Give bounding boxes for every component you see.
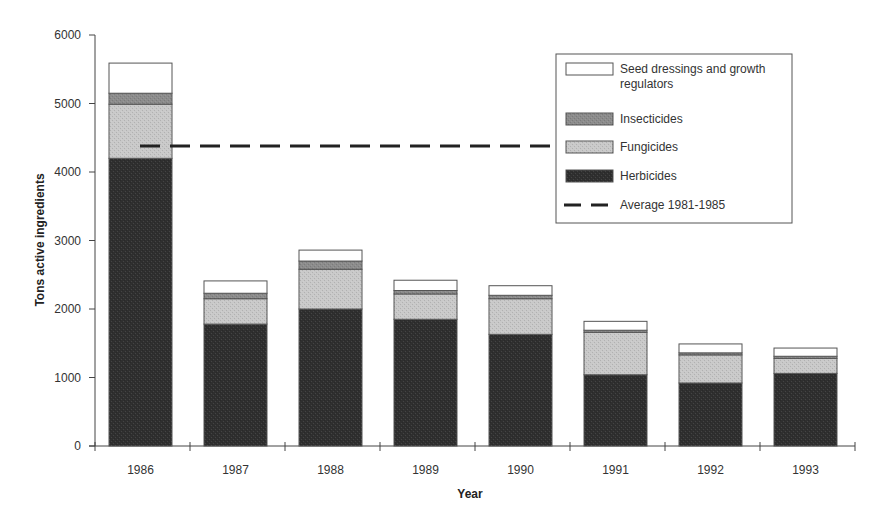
bar-1989 (394, 280, 457, 446)
x-axis-title: Year (457, 487, 483, 501)
bar-segment-seed-dressings-and-growth-regulators (204, 281, 267, 293)
bar-segment-seed-dressings-and-growth-regulators (584, 321, 647, 330)
legend-label: regulators (620, 77, 673, 91)
legend-item: Herbicides (566, 169, 677, 183)
legend-item: Insecticides (566, 112, 683, 126)
x-tick-label: 1989 (412, 463, 439, 477)
legend-swatch (566, 63, 613, 75)
x-tick-label: 1993 (792, 463, 819, 477)
x-tick-label: 1986 (127, 463, 154, 477)
bar-segment-seed-dressings-and-growth-regulators (774, 348, 837, 356)
x-tick-label: 1990 (507, 463, 534, 477)
x-axis: 19861987198819891990199119921993 (89, 442, 855, 477)
legend-label: Herbicides (620, 169, 677, 183)
x-tick-label: 1987 (222, 463, 249, 477)
bar-1991 (584, 321, 647, 446)
bar-segment-seed-dressings-and-growth-regulators (394, 280, 457, 290)
bar-segment-seed-dressings-and-growth-regulators (679, 344, 742, 353)
y-axis: 0100020003000400050006000 (54, 28, 95, 453)
x-tick-label: 1991 (602, 463, 629, 477)
bar-1986 (109, 63, 172, 446)
bar-segment-seed-dressings-and-growth-regulators (109, 63, 172, 93)
y-tick-label: 1000 (54, 371, 81, 385)
legend-item: Fungicides (566, 140, 678, 154)
legend: Seed dressings and growthregulatorsInsec… (556, 54, 792, 223)
bar-segment-seed-dressings-and-growth-regulators (299, 250, 362, 261)
bar-1990 (489, 286, 552, 446)
x-tick-label: 1988 (317, 463, 344, 477)
legend-label: Average 1981-1985 (620, 198, 726, 212)
y-tick-label: 2000 (54, 302, 81, 316)
x-tick-label: 1992 (697, 463, 724, 477)
legend-label: Insecticides (620, 112, 683, 126)
legend-label: Fungicides (620, 140, 678, 154)
y-tick-label: 0 (74, 439, 81, 453)
bar-1987 (204, 281, 267, 446)
bar-1993 (774, 348, 837, 446)
bar-segment-seed-dressings-and-growth-regulators (489, 286, 552, 296)
stacked-bar-chart: 0100020003000400050006000 19861987198819… (0, 0, 881, 526)
y-tick-label: 4000 (54, 165, 81, 179)
y-tick-label: 3000 (54, 234, 81, 248)
y-tick-label: 6000 (54, 28, 81, 42)
bar-1988 (299, 250, 362, 446)
legend-label: Seed dressings and growth (620, 62, 765, 76)
y-axis-title: Tons active ingredients (33, 173, 47, 306)
y-tick-label: 5000 (54, 97, 81, 111)
bar-1992 (679, 344, 742, 446)
